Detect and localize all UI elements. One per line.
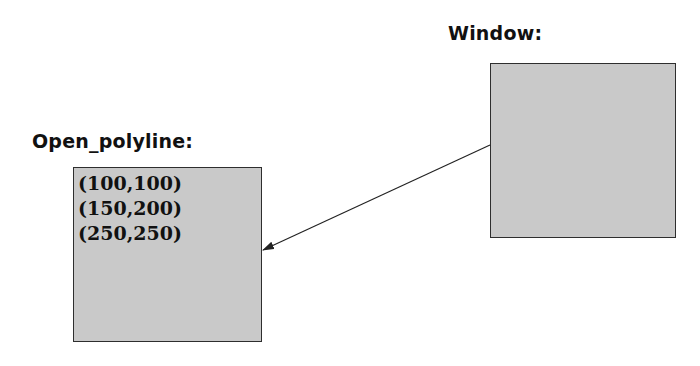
- open-polyline-box: (100,100) (150,200) (250,250): [73, 167, 262, 342]
- window-label: Window:: [448, 22, 542, 44]
- window-box: [490, 63, 676, 238]
- point-list: (100,100) (150,200) (250,250): [78, 171, 182, 246]
- open-polyline-label: Open_polyline:: [32, 130, 193, 152]
- point-1: (100,100): [78, 171, 182, 196]
- point-3: (250,250): [78, 221, 182, 246]
- point-2: (150,200): [78, 196, 182, 221]
